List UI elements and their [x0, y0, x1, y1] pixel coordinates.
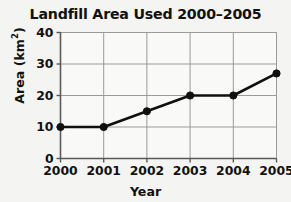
y-tick-label-20: 20 — [36, 88, 54, 103]
x-tick-label-2001: 2001 — [86, 163, 121, 178]
x-tick-label-2000: 2000 — [43, 163, 78, 178]
data-point-2005 — [273, 70, 280, 77]
x-tick-label-2005: 2005 — [259, 163, 291, 178]
x-tick-label-2002: 2002 — [130, 163, 165, 178]
x-tick-label-2003: 2003 — [173, 163, 208, 178]
y-tick-label-10: 10 — [36, 119, 54, 134]
data-point-2000 — [57, 123, 64, 130]
x-axis-tick-labels: 200020012002200320042005 — [43, 163, 291, 178]
data-point-2004 — [230, 92, 237, 99]
data-point-2002 — [143, 108, 150, 115]
data-point-2003 — [187, 92, 194, 99]
y-axis-tick-labels: 010203040 — [36, 25, 54, 166]
line-chart-plot: 010203040 200020012002200320042005 — [0, 0, 291, 202]
chart-container: Landfill Area Used 2000–2005 Area (km2) … — [0, 0, 291, 202]
y-tick-label-40: 40 — [36, 25, 54, 40]
data-point-2001 — [100, 123, 107, 130]
x-tick-label-2004: 2004 — [216, 163, 251, 178]
y-tick-label-30: 30 — [36, 56, 54, 71]
